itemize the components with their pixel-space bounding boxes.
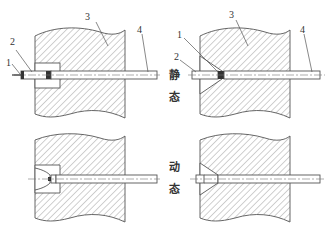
label-dynamic-1: 动	[169, 160, 180, 174]
label-3: 3	[85, 11, 90, 22]
leader-4	[304, 34, 312, 72]
panel-dynamic-countersink	[190, 134, 325, 222]
label-1: 1	[6, 57, 11, 68]
label-4: 4	[137, 24, 142, 35]
leader-4	[142, 34, 148, 72]
label-2: 2	[10, 36, 15, 47]
panel-dynamic-counterbore	[28, 134, 160, 222]
label-3: 3	[229, 9, 234, 20]
label-static-1: 静	[169, 68, 180, 82]
leader-2	[180, 60, 196, 72]
label-2: 2	[174, 51, 179, 62]
panel-static-countersink: 1 2 3 4	[174, 9, 325, 118]
label-1: 1	[177, 29, 182, 40]
leader-1	[12, 64, 20, 74]
panel-static-counterbore: 1 2 3 4	[6, 11, 160, 118]
leader-2	[16, 50, 32, 72]
label-dynamic-2: 态	[169, 182, 180, 196]
label-4: 4	[300, 24, 305, 35]
label-static-2: 态	[169, 90, 180, 104]
diagram-canvas: 1 2 3 4 1 2 3 4	[0, 0, 335, 239]
